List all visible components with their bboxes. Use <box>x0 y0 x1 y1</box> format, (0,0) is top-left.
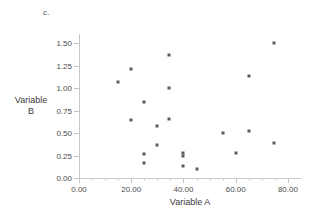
x-axis-tick-label: 0.00 <box>59 185 99 194</box>
y-axis-title: Variable B <box>2 95 60 117</box>
x-axis-line <box>79 178 301 179</box>
x-axis-minor-tick <box>210 178 211 181</box>
x-axis-minor-tick <box>262 178 263 181</box>
data-point <box>130 119 133 122</box>
x-axis-tick-label: 60.00 <box>216 185 256 194</box>
data-point <box>195 168 198 171</box>
y-axis-tick-label: 0.00 <box>42 174 72 183</box>
data-point <box>143 101 146 104</box>
x-axis-tick <box>288 178 289 183</box>
y-axis-title-line-2: B <box>2 106 60 117</box>
x-axis-minor-tick <box>249 178 250 181</box>
x-axis-minor-tick <box>170 178 171 181</box>
data-point <box>247 75 250 78</box>
data-point <box>156 124 159 127</box>
x-axis-title: Variable A <box>79 197 301 207</box>
x-axis-minor-tick <box>105 178 106 181</box>
data-point <box>156 143 159 146</box>
data-point <box>182 154 185 157</box>
x-axis-tick <box>131 178 132 183</box>
x-axis-minor-tick <box>275 178 276 181</box>
scatter-plot-figure: c. 0.000.250.500.751.001.251.50 0.0020.0… <box>0 0 318 215</box>
panel-label: c. <box>43 8 50 17</box>
y-axis-tick-label: 1.00 <box>42 84 72 93</box>
data-point <box>272 42 275 45</box>
x-axis-tick <box>79 178 80 183</box>
data-point <box>272 141 275 144</box>
x-axis-tick-label: 40.00 <box>163 185 203 194</box>
x-axis-tick <box>236 178 237 183</box>
x-axis-tick-label: 80.00 <box>268 185 308 194</box>
data-point <box>143 152 146 155</box>
y-axis-tick-label: 1.25 <box>42 61 72 70</box>
x-axis-tick-label: 20.00 <box>111 185 151 194</box>
y-axis-tick-label: 1.50 <box>42 39 72 48</box>
x-axis-minor-tick <box>197 178 198 181</box>
x-axis-minor-tick <box>118 178 119 181</box>
y-axis-tick-label: 0.25 <box>42 151 72 160</box>
plot-area <box>79 34 301 178</box>
data-point <box>143 161 146 164</box>
y-axis-title-line-1: Variable <box>2 95 60 106</box>
data-point <box>234 151 237 154</box>
data-point <box>168 53 171 56</box>
data-point <box>168 117 171 120</box>
data-point <box>168 87 171 90</box>
x-axis-minor-tick <box>157 178 158 181</box>
data-point <box>182 165 185 168</box>
data-point <box>221 132 224 135</box>
x-axis-minor-tick <box>223 178 224 181</box>
x-axis-minor-tick <box>92 178 93 181</box>
x-axis-minor-tick <box>144 178 145 181</box>
data-point <box>130 68 133 71</box>
x-axis-tick <box>183 178 184 183</box>
y-axis-tick-label: 0.50 <box>42 129 72 138</box>
data-point <box>247 130 250 133</box>
data-point <box>117 80 120 83</box>
